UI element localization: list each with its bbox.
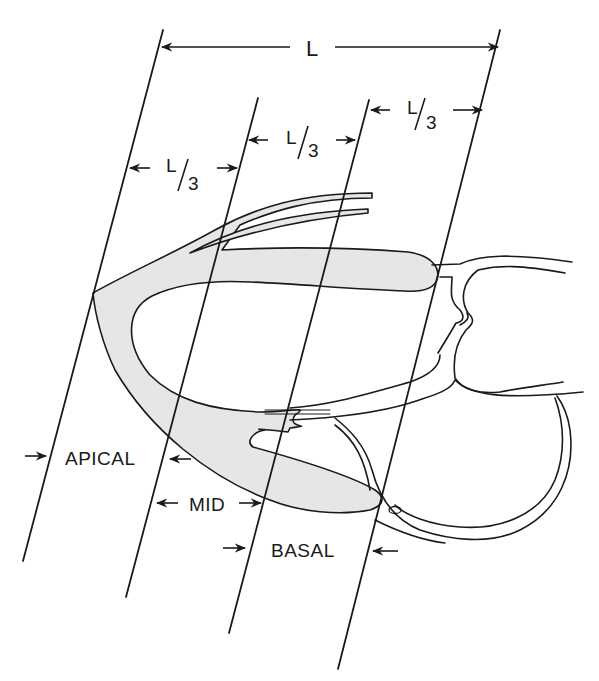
heart-drawing: [93, 193, 583, 543]
lv-myocardium: [93, 193, 438, 513]
segment-label-mid: MID: [189, 494, 225, 515]
third-label-1: L 3: [166, 155, 199, 194]
third-2-numerator: L: [286, 127, 297, 148]
segment-label-basal: BASAL: [271, 540, 335, 561]
third-label-3: L 3: [407, 97, 437, 133]
third-2-slash: [298, 126, 308, 159]
third-1-denominator: 3: [188, 173, 199, 194]
third-1-numerator: L: [166, 155, 177, 176]
third-2-denominator: 3: [308, 140, 319, 161]
third-label-2: L 3: [286, 126, 319, 161]
left-atrium-outer: [335, 396, 571, 539]
third-1-slash: [178, 159, 188, 191]
segment-label-apical: APICAL: [65, 448, 136, 469]
lv-segmentation-diagram: L L 3 L 3 L 3 APICAL MID: [0, 0, 599, 681]
diagram-svg: L L 3 L 3 L 3 APICAL MID: [0, 0, 599, 681]
aorta-inner-upper: [454, 267, 565, 393]
third-3-denominator: 3: [426, 112, 437, 133]
valve-leaflet: [460, 313, 468, 325]
aorta-upper-wall: [432, 256, 572, 265]
third-3-numerator: L: [407, 97, 418, 118]
total-length-label: L: [306, 36, 318, 61]
